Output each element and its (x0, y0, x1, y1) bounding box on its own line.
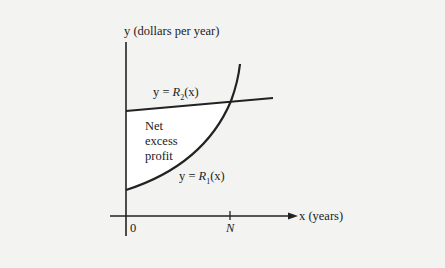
diagram-canvas (0, 0, 445, 268)
x-axis-arrow-icon (288, 213, 298, 220)
r2-line-label: y = R2(x) (153, 86, 199, 104)
r1-curve-label: y = R1(x) (179, 170, 225, 188)
x-axis-label: x (years) (299, 210, 343, 223)
region-label-line-2: excess (145, 135, 178, 148)
region-label-line-3: profit (145, 150, 173, 163)
region-label-line-1: Net (145, 120, 163, 133)
y-axis-label: y (dollars per year) (124, 25, 219, 38)
origin-label: 0 (130, 222, 136, 235)
n-tick-label: N (226, 222, 234, 235)
